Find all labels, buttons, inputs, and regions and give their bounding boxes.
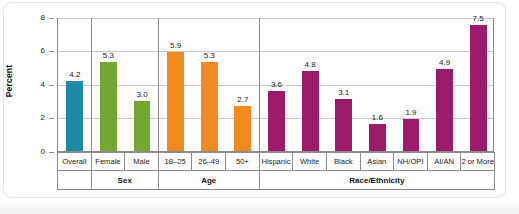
category-cell: White bbox=[292, 152, 327, 171]
bar-asian bbox=[369, 18, 386, 151]
y-tick-0 bbox=[49, 152, 54, 153]
y-tick-2 bbox=[49, 118, 54, 119]
category-cell: Black bbox=[326, 152, 361, 171]
category-cell: 2 or More bbox=[460, 152, 495, 171]
y-tick-label-2: 2 bbox=[0, 114, 45, 122]
bar-white bbox=[302, 18, 319, 151]
bar-rect bbox=[268, 91, 285, 151]
bar-2-or-more bbox=[470, 18, 487, 151]
bar-rect bbox=[369, 124, 386, 151]
bar-chart: Percent 02468 4.25.33.05.95.32.73.64.83.… bbox=[0, 0, 519, 214]
bar-value-label: 1.6 bbox=[361, 114, 395, 122]
y-tick-label-0: 0 bbox=[0, 148, 45, 156]
bar-value-label: 4.2 bbox=[58, 71, 92, 79]
category-cell: 18–25 bbox=[158, 152, 193, 171]
bar-rect bbox=[403, 119, 420, 151]
bar-value-label: 3.0 bbox=[125, 91, 159, 99]
bar-rect bbox=[66, 81, 83, 151]
y-tick-label-4: 4 bbox=[0, 81, 45, 89]
bar-rect bbox=[234, 106, 251, 151]
bar-value-label: 1.9 bbox=[394, 109, 428, 117]
y-axis: Percent 02468 bbox=[0, 0, 57, 214]
bar-value-label: 5.3 bbox=[92, 52, 126, 60]
bar-rect bbox=[335, 99, 352, 151]
bar-black bbox=[335, 18, 352, 151]
bar-value-label: 5.9 bbox=[159, 42, 193, 50]
bar-value-label: 2.7 bbox=[226, 96, 260, 104]
y-tick-8 bbox=[49, 18, 54, 19]
group-cell: Sex bbox=[91, 170, 159, 190]
category-cell: Male bbox=[124, 152, 159, 171]
bar-rect bbox=[302, 71, 319, 151]
category-cell: Asian bbox=[360, 152, 395, 171]
bar-value-label: 5.3 bbox=[192, 52, 226, 60]
category-cell: 26–49 bbox=[191, 152, 226, 171]
bar-50 bbox=[234, 18, 251, 151]
bar-rect bbox=[167, 52, 184, 151]
bar-value-label: 4.9 bbox=[428, 59, 462, 67]
bar-value-label: 3.1 bbox=[327, 89, 361, 97]
bar-male bbox=[134, 18, 151, 151]
group-cell: Age bbox=[158, 170, 260, 190]
bar-nh-opi bbox=[403, 18, 420, 151]
bar-rect bbox=[436, 69, 453, 151]
bar-rect bbox=[470, 25, 487, 151]
category-label-table: OverallFemaleMale18–2526–4950+HispanicWh… bbox=[57, 152, 494, 190]
bar-rect bbox=[201, 62, 218, 151]
y-tick-6 bbox=[49, 51, 54, 52]
category-cell: NH/OPI bbox=[393, 152, 428, 171]
bar-ai-an bbox=[436, 18, 453, 151]
bar-value-label: 4.8 bbox=[293, 61, 327, 69]
group-separator bbox=[158, 18, 159, 151]
category-cell: Overall bbox=[57, 152, 92, 171]
bar-rect bbox=[134, 101, 151, 151]
bar-26-49 bbox=[201, 18, 218, 151]
bar-female bbox=[100, 18, 117, 151]
bar-value-label: 3.6 bbox=[260, 81, 294, 89]
bar-overall bbox=[66, 18, 83, 151]
category-cell: Female bbox=[91, 152, 126, 171]
category-cell: AI/AN bbox=[427, 152, 462, 171]
category-cell: 50+ bbox=[225, 152, 260, 171]
bar-18-25 bbox=[167, 18, 184, 151]
group-separator bbox=[91, 18, 92, 151]
group-cell bbox=[57, 170, 92, 190]
group-cell: Race/Ethnicity bbox=[259, 170, 495, 190]
y-tick-4 bbox=[49, 85, 54, 86]
plot-area: 4.25.33.05.95.32.73.64.83.11.61.94.97.5 bbox=[57, 18, 494, 152]
bar-value-label: 7.5 bbox=[461, 15, 495, 23]
bar-rect bbox=[100, 62, 117, 151]
y-tick-label-6: 6 bbox=[0, 47, 45, 55]
category-cell: Hispanic bbox=[259, 152, 294, 171]
y-tick-label-8: 8 bbox=[0, 14, 45, 22]
